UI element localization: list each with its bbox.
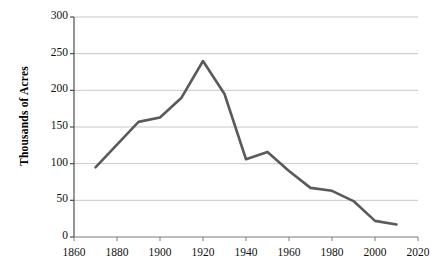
x-axis-tick-label: 1900 xyxy=(138,246,182,258)
y-axis-tick-label: 50 xyxy=(28,192,68,204)
x-axis-tick-label: 1920 xyxy=(181,246,225,258)
x-axis-tick-label: 1960 xyxy=(267,246,311,258)
y-axis-tick-label: 150 xyxy=(28,119,68,131)
chart-container: Thousands of Acres 050100150200250300 18… xyxy=(0,0,445,280)
x-axis-tick-label: 1980 xyxy=(310,246,354,258)
y-axis-tick-label: 250 xyxy=(28,46,68,58)
y-axis-tick-label: 200 xyxy=(28,82,68,94)
x-axis-tick-label: 1860 xyxy=(52,246,96,258)
y-axis-tick-label: 0 xyxy=(28,229,68,241)
x-axis-tick-label: 2000 xyxy=(353,246,397,258)
y-axis-tick-label: 300 xyxy=(28,9,68,21)
x-axis-tick-label: 1880 xyxy=(95,246,139,258)
x-axis-tick-label: 2020 xyxy=(396,246,440,258)
x-axis-tick-label: 1940 xyxy=(224,246,268,258)
y-axis-tick-label: 100 xyxy=(28,156,68,168)
